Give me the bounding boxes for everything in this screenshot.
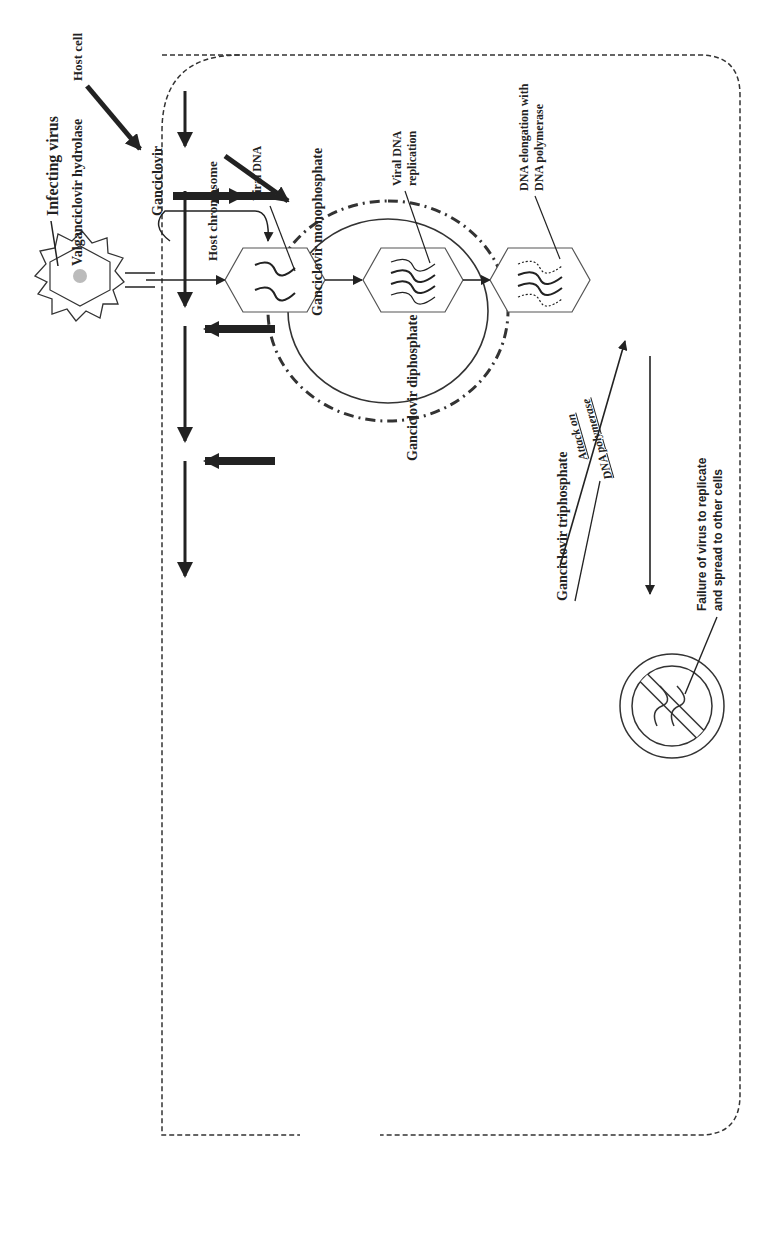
replication-label-2: replication bbox=[405, 131, 419, 186]
triphosphate-label: Ganciclovir triphosphate bbox=[555, 452, 570, 601]
dna-elongation-hexagon bbox=[490, 248, 590, 312]
viral-dna-label: Viral DNA bbox=[250, 146, 264, 201]
failure-label-2: and spread to other cells bbox=[711, 469, 725, 611]
host-cell-label: Host cell bbox=[70, 33, 85, 81]
failure-prohibited-icon bbox=[620, 654, 724, 758]
elongation-label-1: DNA elongation with bbox=[517, 84, 531, 191]
infecting-virus-label: Infecting virus bbox=[45, 116, 60, 216]
host-chromosome-label: Host chromosome bbox=[205, 161, 220, 261]
failure-label-1: Failure of virus to replicate bbox=[695, 458, 709, 611]
diagram-stage: Host cell Host chromosome Infecting viru… bbox=[0, 0, 767, 1241]
diagram-graphics bbox=[0, 0, 767, 1241]
host-cell-arrow bbox=[87, 86, 140, 149]
ganciclovir-label: Ganciclovir bbox=[150, 146, 165, 216]
diphosphate-label: Ganciclovir diphosphate bbox=[405, 315, 420, 461]
host-cell-membrane bbox=[162, 55, 740, 1135]
elongation-label-2: DNA polymerase bbox=[532, 104, 546, 191]
replication-label-1: Viral DNA bbox=[390, 131, 404, 186]
viral-dna-replication-hexagon bbox=[363, 248, 463, 312]
valganciclovir-hydrolase-label: Valganciclovir hydrolase bbox=[70, 119, 85, 266]
host-cell-membrane-top bbox=[162, 55, 300, 1135]
monophosphate-label: Ganciclovir monophosphate bbox=[310, 148, 325, 316]
